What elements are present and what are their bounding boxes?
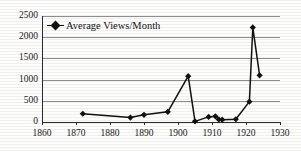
data-point-marker bbox=[80, 111, 86, 117]
data-point-marker bbox=[141, 112, 147, 118]
series-line bbox=[83, 27, 260, 121]
data-point-marker bbox=[165, 109, 171, 115]
data-point-marker bbox=[185, 73, 191, 79]
data-point-marker bbox=[192, 118, 198, 124]
chart-container: 2500 2000 1500 1000 500 0 1860 1870 1880… bbox=[0, 0, 301, 151]
data-point-marker bbox=[127, 114, 133, 120]
data-point-marker bbox=[206, 114, 212, 120]
data-point-marker bbox=[219, 117, 225, 123]
data-point-marker bbox=[257, 72, 263, 78]
series-average-views bbox=[0, 0, 301, 151]
series-markers bbox=[80, 24, 263, 124]
data-point-marker bbox=[250, 24, 256, 30]
